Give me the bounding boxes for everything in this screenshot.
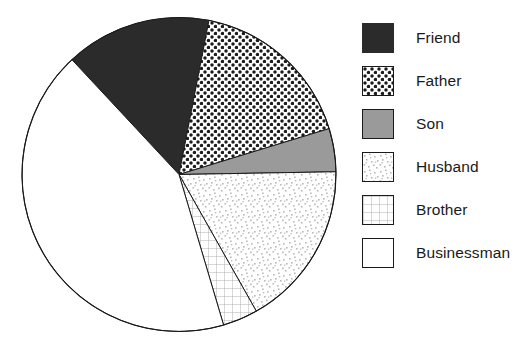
- legend-item-son[interactable]: Son: [362, 102, 528, 145]
- legend-label-husband: Husband: [416, 159, 479, 175]
- legend-label-brother: Brother: [416, 202, 468, 218]
- legend-label-friend: Friend: [416, 30, 461, 46]
- swatch-fine-speckle-icon: [362, 152, 394, 182]
- legend-item-brother[interactable]: Brother: [362, 188, 528, 231]
- swatch-grid-fill: [363, 196, 393, 224]
- swatch-polka-dots-fill: [363, 67, 393, 95]
- legend-item-father[interactable]: Father: [362, 59, 528, 102]
- swatch-grid-icon: [362, 195, 394, 225]
- swatch-fine-speckle-fill: [363, 153, 393, 181]
- swatch-solid-gray-icon: [362, 109, 394, 139]
- swatch-plain-white-icon: [362, 238, 394, 268]
- legend: Friend Father Son Husband: [362, 16, 528, 274]
- legend-item-businessman[interactable]: Businessman: [362, 231, 528, 274]
- legend-item-friend[interactable]: Friend: [362, 16, 528, 59]
- swatch-polka-dots-icon: [362, 66, 394, 96]
- pie-slices-group: [22, 17, 336, 331]
- legend-label-son: Son: [416, 116, 444, 132]
- legend-label-father: Father: [416, 73, 461, 89]
- swatch-solid-dark-icon: [362, 23, 394, 53]
- legend-item-husband[interactable]: Husband: [362, 145, 528, 188]
- pie-chart-figure: Friend Father Son Husband: [0, 0, 532, 350]
- legend-label-businessman: Businessman: [416, 245, 510, 261]
